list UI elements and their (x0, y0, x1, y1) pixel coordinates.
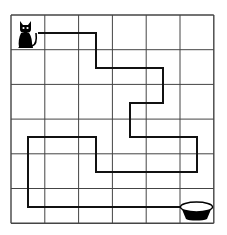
maze-diagram (0, 0, 227, 235)
grid (11, 15, 214, 223)
bowl-icon (181, 202, 213, 221)
cat-icon (18, 21, 36, 48)
